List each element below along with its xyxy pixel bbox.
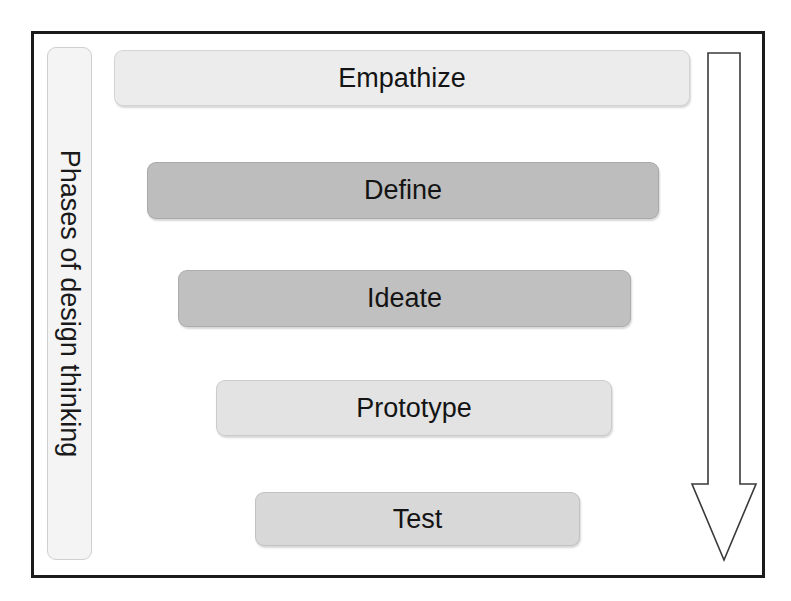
phase-bar-label: Test — [393, 504, 443, 535]
down-arrow-icon — [690, 52, 758, 562]
diagram-canvas: Phases of design thinking EmpathizeDefin… — [0, 0, 791, 601]
phase-bar-label: Define — [364, 175, 442, 206]
phase-bar[interactable]: Test — [255, 492, 580, 546]
phase-bar[interactable]: Prototype — [216, 380, 612, 436]
phase-bar[interactable]: Ideate — [178, 270, 631, 327]
phases-vertical-label: Phases of design thinking — [47, 47, 92, 560]
phase-bar-label: Prototype — [356, 393, 472, 424]
phase-bar-label: Empathize — [338, 63, 466, 94]
phase-bar-label: Ideate — [367, 283, 442, 314]
phase-bar[interactable]: Define — [147, 162, 659, 219]
phases-vertical-label-text: Phases of design thinking — [56, 150, 83, 458]
phase-bar[interactable]: Empathize — [114, 50, 690, 106]
progression-arrow — [690, 52, 758, 562]
